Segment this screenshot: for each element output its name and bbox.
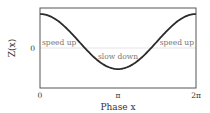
x-tick-pi: π [116, 91, 121, 100]
y-axis-label: Z(x) [7, 39, 17, 57]
x-axis-label: Phase x [100, 102, 135, 112]
x-tick-0: 0 [38, 91, 43, 100]
annotation-speed-up-right: speed up [160, 38, 195, 47]
annotation-speed-up-left: speed up [42, 38, 77, 47]
annotation-slow-down: slow down [98, 52, 138, 61]
x-tick-2pi: 2π [191, 91, 201, 100]
y-tick-0: 0 [30, 44, 35, 53]
phase-response-chart: speed up slow down speed up 0 Z(x) 0 π 2… [0, 0, 210, 113]
